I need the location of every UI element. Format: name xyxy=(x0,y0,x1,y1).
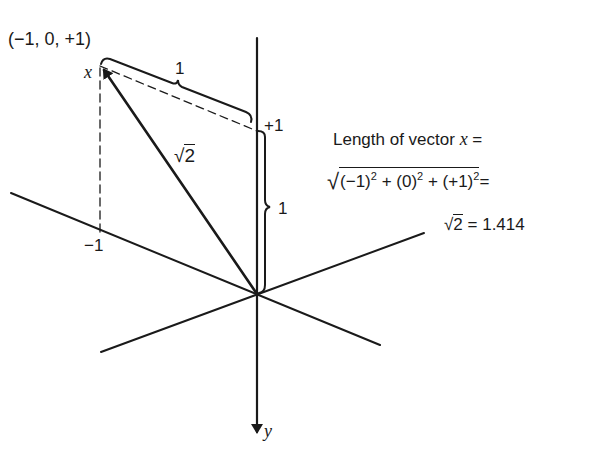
brace-top-label: 1 xyxy=(175,60,184,77)
vector-length-label: √2 xyxy=(174,146,195,165)
formula-text: Length of vector xyxy=(333,130,460,149)
sqrt-symbol: √ xyxy=(174,145,184,166)
formula-line-1: Length of vector x = xyxy=(333,130,482,148)
point-coordinates-label: (−1, 0, +1) xyxy=(8,30,91,48)
brace-right-label: 1 xyxy=(278,200,287,217)
formula-result: = 1.414 xyxy=(463,215,525,234)
y-axis-label: y xyxy=(264,422,272,440)
formula-equals: = xyxy=(468,130,483,149)
sqrt-symbol: √ xyxy=(444,215,453,234)
vector-x-arrow xyxy=(104,70,257,294)
formula-equals-2: = xyxy=(479,172,489,191)
root-value: 2 xyxy=(453,214,462,234)
tick-plus-one-label: +1 xyxy=(264,117,283,134)
formula-line-2: √(−1)2 + (0)2 + (+1)2 = xyxy=(327,167,489,191)
tick-minus-one-label: −1 xyxy=(84,237,103,254)
radical-sign: √ xyxy=(327,171,339,193)
formula-variable: x xyxy=(460,129,468,149)
vector-x-label: x xyxy=(84,63,92,81)
square-root: √(−1)2 + (0)2 + (+1)2 xyxy=(327,167,479,191)
formula-line-3: √2 = 1.414 xyxy=(444,216,525,233)
radicand: (−1)2 + (0)2 + (+1)2 xyxy=(339,167,479,190)
brace-right xyxy=(258,131,270,293)
vector-length-value: 2 xyxy=(184,144,195,166)
